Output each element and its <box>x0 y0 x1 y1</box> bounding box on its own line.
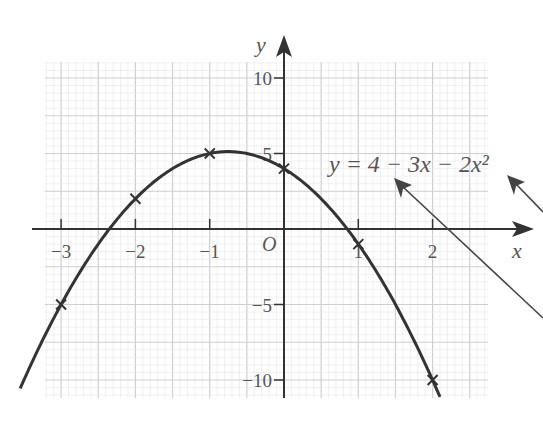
x-tick-label: −3 <box>51 241 71 262</box>
pointer-arrow-2 <box>515 183 543 212</box>
x-tick-label: −2 <box>125 241 145 262</box>
x-axis-label: x <box>511 238 522 263</box>
pointer-arrow-2-head-icon <box>507 175 525 195</box>
y-tick-label: −10 <box>242 370 272 391</box>
axes <box>32 35 534 398</box>
x-tick-label: −1 <box>200 241 220 262</box>
x-tick-label: 2 <box>428 241 438 262</box>
equation-label: y = 4 − 3x − 2x² <box>327 151 490 177</box>
y-tick-label: 10 <box>253 68 272 89</box>
quadratic-graph: −3−2−112105−5−10 x y O y = 4 − 3x − 2x² <box>0 0 543 436</box>
origin-label: O <box>262 233 276 255</box>
pointer-arrow-1 <box>402 186 543 318</box>
y-tick-label: −5 <box>252 295 272 316</box>
y-axis-label: y <box>254 32 266 57</box>
